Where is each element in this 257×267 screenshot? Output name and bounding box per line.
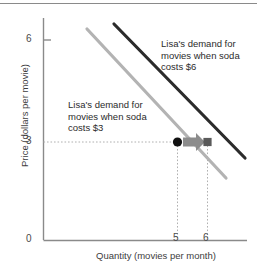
annotation-soda-costs-3: Lisa's demand for movies when soda costs…: [68, 99, 162, 134]
x-tick-label-5: 5: [173, 232, 179, 243]
x-tick-label-6: 6: [203, 232, 209, 243]
annotation-soda-costs-6: Lisa's demand for movies when soda costs…: [161, 38, 253, 73]
y-tick-label-6: 6: [26, 33, 32, 44]
marker-quantity-6: [203, 138, 211, 146]
marker-quantity-5: [173, 137, 182, 146]
origin-label: 0: [26, 233, 32, 244]
y-axis-title: Price (dollars per movie): [19, 46, 30, 186]
chart-figure: 6 3 0 5 6 Price (dollars per movie) Quan…: [0, 0, 257, 267]
x-axis-title: Quantity (movies per month): [96, 250, 216, 261]
